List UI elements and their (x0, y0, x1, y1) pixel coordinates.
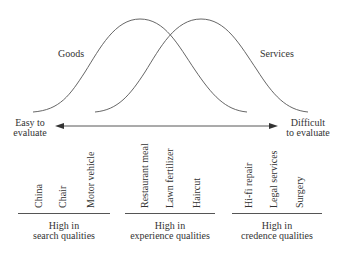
item-restaurant-meal: Restaurant meal (140, 143, 150, 208)
arrowhead-right-icon (269, 123, 278, 129)
item-motor-vehicle: Motor vehicle (86, 152, 96, 208)
item-china: China (34, 184, 44, 208)
easy-to-evaluate-label: Easy to evaluate (13, 118, 46, 138)
arrowhead-left-icon (55, 123, 64, 129)
goods-curve (33, 19, 247, 112)
item-lawn-fertilizer: Lawn fertilizer (165, 148, 175, 208)
services-label: Services (260, 49, 294, 59)
item-legal-services: Legal services (269, 151, 279, 208)
credence-qualities-heading: High in credence qualities (241, 221, 313, 241)
difficult-label-line2: to evaluate (286, 128, 330, 138)
search-group-divider (18, 213, 110, 214)
easy-label-line2: evaluate (13, 128, 46, 138)
heading-line2: credence qualities (241, 231, 313, 241)
search-qualities-heading: High in search qualities (33, 221, 95, 241)
item-hifi-repair: Hi-fi repair (244, 163, 254, 208)
services-curve (95, 19, 308, 112)
heading-line2: experience qualities (130, 231, 210, 241)
item-surgery: Surgery (295, 177, 305, 208)
item-chair: Chair (58, 186, 68, 208)
experience-qualities-heading: High in experience qualities (130, 221, 210, 241)
difficult-to-evaluate-label: Difficult to evaluate (286, 118, 330, 138)
experience-group-divider (125, 213, 215, 214)
heading-line2: search qualities (33, 231, 95, 241)
credence-group-divider (232, 213, 322, 214)
item-haircut: Haircut (192, 178, 202, 208)
goods-label: Goods (58, 49, 84, 59)
